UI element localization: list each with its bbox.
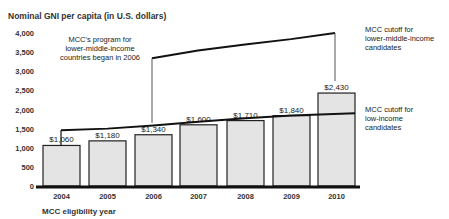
y-tick-label: 3,500 [15, 48, 34, 57]
svg-text:low-income: low-income [365, 114, 403, 123]
x-axis-title: MCC eligibility year [42, 207, 116, 216]
svg-text:lower-middle-income: lower-middle-income [365, 34, 434, 43]
bar-2009 [273, 116, 310, 186]
x-tick-label: 2009 [283, 192, 300, 201]
y-tick-label: 3,000 [15, 67, 34, 76]
y-tick-label: 1,500 [15, 125, 34, 134]
bars: $1,060$1,180$1,340$1,600$1,710$1,840$2,4… [43, 83, 355, 186]
bar-2007 [180, 125, 217, 186]
lower-middle-income-cutoff-line [152, 33, 335, 58]
x-tick-label: 2005 [99, 192, 116, 201]
bar-value-label: $1,840 [279, 106, 304, 115]
svg-text:lower-middle-income: lower-middle-income [65, 44, 134, 53]
y-tick-label: 2,000 [15, 106, 34, 115]
bar-2008 [227, 121, 264, 186]
y-tick-label: 4,000 [15, 29, 34, 38]
lower-cutoff-label: MCC cutoff for low-income candidates [365, 105, 414, 132]
bar-value-label: $1,180 [95, 131, 120, 140]
x-tick-label: 2006 [145, 192, 162, 201]
x-tick-label: 2007 [190, 192, 207, 201]
y-tick-label: 0 [30, 182, 34, 191]
y-tick-label: 2,500 [15, 86, 34, 95]
svg-text:MCC cutoff for: MCC cutoff for [365, 25, 414, 34]
y-tick-label: 1,000 [15, 144, 34, 153]
x-tick-label: 2004 [53, 192, 71, 201]
svg-text:candidates: candidates [365, 123, 402, 132]
bar-value-label: $2,430 [324, 83, 349, 92]
y-axis-ticks: 05001,0001,5002,0002,5003,0003,5004,000 [15, 29, 34, 191]
bar-2004 [43, 145, 80, 186]
x-tick-label: 2010 [328, 192, 345, 201]
program-start-note: MCC's program for lower-middle-income co… [60, 35, 140, 62]
y-axis-title: Nominal GNI per capita (in U.S. dollars) [8, 11, 166, 21]
x-axis-ticks: 2004200520062007200820092010 [53, 192, 345, 201]
upper-cutoff-label: MCC cutoff for lower-middle-income candi… [365, 25, 434, 52]
x-tick-label: 2008 [237, 192, 254, 201]
bar-2005 [89, 141, 126, 186]
svg-text:countries began in 2006: countries began in 2006 [60, 53, 140, 62]
svg-text:MCC's program for: MCC's program for [68, 35, 132, 44]
svg-text:candidates: candidates [365, 43, 402, 52]
bar-2006 [135, 135, 172, 186]
y-tick-label: 500 [21, 163, 34, 172]
gni-bar-chart: Nominal GNI per capita (in U.S. dollars)… [0, 0, 449, 219]
svg-text:MCC cutoff for: MCC cutoff for [365, 105, 414, 114]
bar-2010 [318, 93, 355, 186]
bar-value-label: $1,060 [49, 135, 74, 144]
